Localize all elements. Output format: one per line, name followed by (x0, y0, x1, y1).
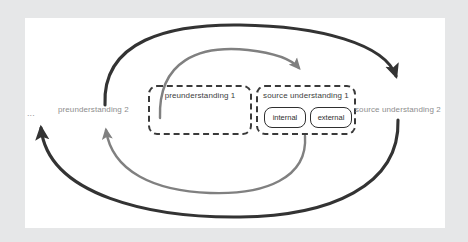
diagram-root: preunderstanding 1 source understanding … (0, 0, 468, 242)
box-preunderstanding-1: preunderstanding 1 (148, 85, 252, 135)
box-source-understanding-1-title: source understanding 1 (258, 91, 354, 100)
box-source-understanding-1: source understanding 1 internal external (256, 85, 356, 135)
box-preunderstanding-1-title: preunderstanding 1 (150, 91, 250, 100)
label-source-understanding-2: source understanding 2 (355, 105, 441, 114)
chip-external: external (310, 107, 352, 128)
label-ellipsis: ... (27, 108, 35, 118)
chip-internal: internal (264, 107, 306, 128)
label-preunderstanding-2: preunderstanding 2 (58, 105, 129, 114)
